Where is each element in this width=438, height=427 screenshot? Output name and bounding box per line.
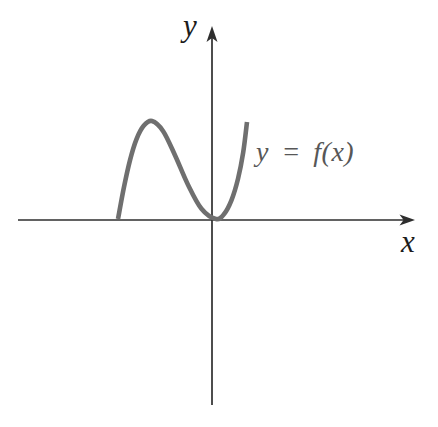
x-axis-label: x xyxy=(401,226,415,257)
function-graph-figure: y x y = f(x) xyxy=(0,0,438,427)
y-axis-label: y xyxy=(183,10,197,41)
axes-and-curve-canvas xyxy=(0,0,438,427)
curve-equation-label: y = f(x) xyxy=(256,138,354,166)
function-curve xyxy=(118,121,247,219)
